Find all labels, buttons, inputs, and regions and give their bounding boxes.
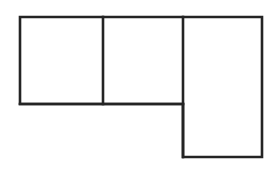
middle-square-face	[103, 17, 183, 104]
figure-faces	[20, 17, 262, 157]
left-square-face	[20, 17, 103, 104]
geometric-figure	[0, 0, 278, 170]
right-tall-rectangle-face	[183, 17, 262, 157]
figure-canvas	[0, 0, 278, 170]
